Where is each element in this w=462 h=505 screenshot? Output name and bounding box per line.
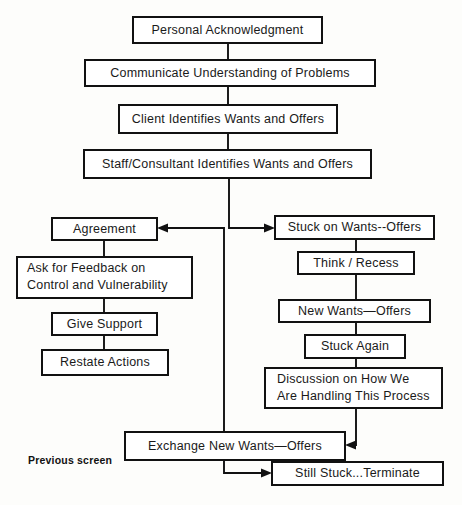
node-label-staff-identifies: Staff/Consultant Identifies Wants and Of… [102, 157, 353, 171]
node-label-give-support: Give Support [67, 317, 143, 331]
arrowhead-into-agreement [157, 224, 168, 233]
node-label-think-recess: Think / Recess [313, 256, 398, 270]
flowchart-svg: Personal Acknowledgment Communicate Unde… [0, 0, 462, 505]
node-label-restate-actions: Restate Actions [60, 355, 150, 369]
previous-screen-caption: Previous screen [28, 454, 112, 466]
node-label-agreement: Agreement [73, 222, 136, 236]
arrowhead-into-exchange [345, 441, 356, 450]
node-label-discussion-line1: Discussion on How We [277, 372, 409, 386]
node-label-new-wants-offers: New Wants—Offers [298, 304, 411, 318]
node-label-ask-feedback-line2: Control and Vulnerability [27, 278, 168, 292]
node-label-discussion-line2: Are Handling This Process [277, 389, 430, 403]
arrowhead-into-still-stuck [261, 469, 272, 478]
connector-staff-to-stuck [229, 178, 268, 228]
flowchart-canvas: Personal Acknowledgment Communicate Unde… [0, 0, 462, 505]
arrowhead-into-stuck-on-wants [264, 224, 275, 233]
node-label-personal-acknowledgment: Personal Acknowledgment [152, 23, 304, 37]
connector-discussion-to-exchange [352, 408, 356, 445]
connector-exchange-to-still-stuck [224, 460, 265, 473]
node-label-client-identifies: Client Identifies Wants and Offers [132, 112, 324, 126]
node-label-exchange-new-wants: Exchange New Wants—Offers [148, 439, 322, 453]
node-label-stuck-on-wants: Stuck on Wants--Offers [288, 220, 422, 234]
node-label-ask-feedback-line1: Ask for Feedback on [27, 261, 145, 275]
node-label-still-stuck-terminate: Still Stuck...Terminate [295, 466, 420, 480]
node-label-stuck-again: Stuck Again [321, 339, 389, 353]
node-label-communicate-understanding: Communicate Understanding of Problems [110, 66, 349, 80]
